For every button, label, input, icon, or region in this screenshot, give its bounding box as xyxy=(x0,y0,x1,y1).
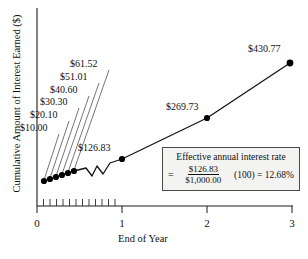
point-label-year1: $126.83 xyxy=(78,142,111,153)
x-axis-title: End of Year xyxy=(118,233,168,244)
effective-rate-callout: Effective annual interest rate = $126.83… xyxy=(162,147,300,191)
x-tick-label-2: 2 xyxy=(204,217,210,229)
fraction-denominator: $1,000.00 xyxy=(184,175,222,185)
formula-result: (100) = 12.68% xyxy=(234,170,294,180)
x-axis-major-ticks xyxy=(37,206,292,213)
fraction-numerator: $126.83 xyxy=(188,164,219,175)
point-label-40: $40.60 xyxy=(50,84,78,95)
point-label-51: $51.01 xyxy=(60,71,88,82)
point-label-61: $61.52 xyxy=(70,58,98,69)
point-label-year3: $430.77 xyxy=(248,43,281,54)
equals-sign: = xyxy=(168,169,174,180)
fraction: $126.83 $1,000.00 xyxy=(177,164,230,185)
callout-title: Effective annual interest rate xyxy=(168,152,294,162)
callout-formula: = $126.83 $1,000.00 (100) = 12.68% xyxy=(168,164,294,185)
x-axis-minor-ticks xyxy=(44,199,116,206)
point-label-30: $30.30 xyxy=(40,96,68,107)
x-tick-label-1: 1 xyxy=(119,217,125,229)
interest-growth-chart: 0 1 2 3 Cumulative Amount of Interest Ea… xyxy=(0,0,308,259)
point-label-year2: $269.73 xyxy=(166,101,199,112)
x-tick-label-0: 0 xyxy=(34,217,40,229)
x-tick-label-3: 3 xyxy=(289,217,295,229)
point-label-20: $20.10 xyxy=(30,109,58,120)
point-label-10: $10.00 xyxy=(20,122,48,133)
y-axis-title: Cumulative Amount of Interest Earned ($) xyxy=(11,4,22,204)
